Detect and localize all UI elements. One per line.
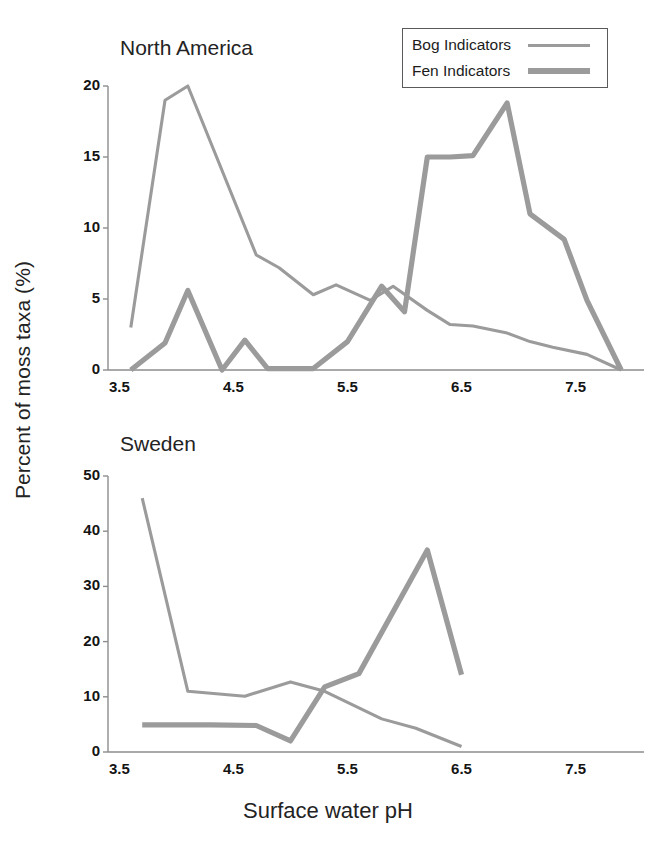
y-tick-label: 40 bbox=[66, 521, 100, 538]
x-tick-label: 3.5 bbox=[98, 378, 140, 395]
x-tick-label: 6.5 bbox=[441, 760, 483, 777]
chart-panel-sweden: Sweden 010203040503.54.55.56.57.5 bbox=[46, 428, 656, 800]
y-tick-label: 30 bbox=[66, 576, 100, 593]
x-tick-label: 7.5 bbox=[555, 378, 597, 395]
x-axis-title: Surface water pH bbox=[0, 798, 656, 824]
x-tick-label: 4.5 bbox=[212, 378, 254, 395]
x-tick-label: 5.5 bbox=[326, 378, 368, 395]
x-tick-label: 5.5 bbox=[326, 760, 368, 777]
x-tick-label: 3.5 bbox=[98, 760, 140, 777]
data-line-fen-indicators bbox=[142, 550, 461, 741]
legend-swatch-fen-icon bbox=[528, 68, 590, 74]
data-line-fen-indicators bbox=[131, 103, 621, 370]
y-tick-label: 5 bbox=[66, 289, 100, 306]
y-tick-label: 50 bbox=[66, 466, 100, 483]
y-tick-label: 15 bbox=[66, 147, 100, 164]
y-axis-title-container: Percent of moss taxa (%) bbox=[0, 0, 46, 760]
legend-label-bog: Bog Indicators bbox=[412, 36, 528, 54]
legend-label-fen: Fen Indicators bbox=[412, 62, 528, 80]
chart-legend: Bog Indicators Fen Indicators bbox=[402, 28, 608, 88]
y-tick-label: 0 bbox=[66, 742, 100, 759]
x-tick-label: 7.5 bbox=[555, 760, 597, 777]
y-tick-label: 0 bbox=[66, 360, 100, 377]
y-tick-label: 20 bbox=[66, 632, 100, 649]
x-tick-label: 6.5 bbox=[441, 378, 483, 395]
y-tick-label: 20 bbox=[66, 76, 100, 93]
chart-svg bbox=[46, 428, 656, 800]
legend-swatch-bog-icon bbox=[528, 44, 590, 47]
y-tick-label: 10 bbox=[66, 218, 100, 235]
legend-item-fen: Fen Indicators bbox=[412, 58, 599, 84]
y-axis-title: Percent of moss taxa (%) bbox=[11, 261, 35, 499]
data-line-bog-indicators bbox=[142, 498, 461, 746]
plot-area-sweden: 010203040503.54.55.56.57.5 bbox=[46, 428, 656, 800]
y-tick-label: 10 bbox=[66, 687, 100, 704]
x-tick-label: 4.5 bbox=[212, 760, 254, 777]
legend-item-bog: Bog Indicators bbox=[412, 32, 599, 58]
